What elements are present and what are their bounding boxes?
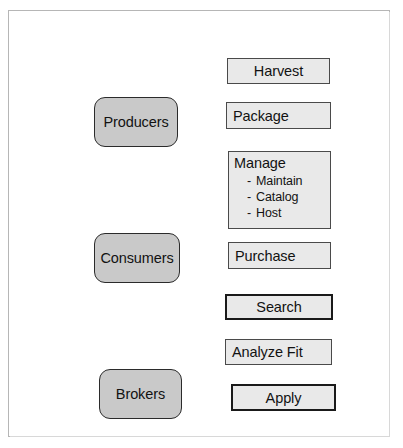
manage-sublist-label-maintain: Maintain bbox=[256, 174, 302, 188]
actor-label-consumers: Consumers bbox=[100, 250, 173, 266]
manage-sublist-item-maintain: -Maintain bbox=[247, 173, 302, 189]
actor-node-brokers[interactable]: Brokers bbox=[99, 369, 182, 419]
activity-box-manage[interactable]: Manage -Maintain -Catalog -Host bbox=[228, 151, 331, 229]
activity-label-package: Package bbox=[233, 108, 289, 124]
activity-box-apply[interactable]: Apply bbox=[231, 384, 336, 411]
activity-box-harvest[interactable]: Harvest bbox=[227, 58, 330, 84]
diagram-frame: Producers Consumers Brokers Harvest Pack… bbox=[8, 10, 390, 437]
manage-sublist-label-host: Host bbox=[256, 206, 281, 220]
activity-box-purchase[interactable]: Purchase bbox=[228, 242, 331, 269]
activity-box-search[interactable]: Search bbox=[225, 294, 333, 320]
actor-node-producers[interactable]: Producers bbox=[94, 97, 178, 147]
bullet-dash-icon: - bbox=[247, 189, 256, 205]
activity-label-search: Search bbox=[256, 299, 301, 315]
actor-label-brokers: Brokers bbox=[116, 386, 165, 402]
activity-box-package[interactable]: Package bbox=[226, 102, 331, 129]
bullet-dash-icon: - bbox=[247, 205, 256, 221]
manage-sublist-item-host: -Host bbox=[247, 205, 302, 221]
manage-sublist: -Maintain -Catalog -Host bbox=[234, 173, 302, 221]
activity-label-apply: Apply bbox=[266, 390, 302, 406]
activity-label-manage: Manage bbox=[234, 153, 286, 173]
activity-box-analyze-fit[interactable]: Analyze Fit bbox=[225, 339, 332, 365]
bullet-dash-icon: - bbox=[247, 173, 256, 189]
activity-label-analyze-fit: Analyze Fit bbox=[232, 344, 303, 360]
activity-label-purchase: Purchase bbox=[235, 248, 295, 264]
manage-sublist-item-catalog: -Catalog bbox=[247, 189, 302, 205]
actor-label-producers: Producers bbox=[103, 114, 168, 130]
manage-sublist-label-catalog: Catalog bbox=[256, 190, 298, 204]
activity-label-harvest: Harvest bbox=[254, 63, 303, 79]
actor-node-consumers[interactable]: Consumers bbox=[94, 233, 180, 283]
